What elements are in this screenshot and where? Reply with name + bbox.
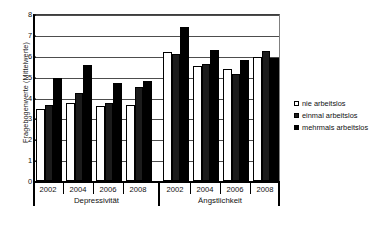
bar [172, 54, 181, 181]
legend-item: mehrmals arbeitslos [294, 122, 382, 133]
bar [105, 103, 114, 181]
bar [193, 66, 202, 181]
bar-group [35, 15, 65, 181]
bar-chart: Fragebogenwerte (Mittelwerte) 012345678 … [0, 0, 384, 237]
bar-group [65, 15, 95, 181]
x-axis-tick-label: 2002 [160, 186, 190, 194]
bar [96, 106, 105, 181]
legend-label: mehrmals arbeitslos [302, 124, 368, 131]
bar [163, 52, 172, 181]
x-axis-tick-label: 2008 [250, 186, 280, 194]
bar-group [162, 15, 192, 181]
bar [113, 83, 122, 181]
y-axis-tick-label: 5 [28, 74, 32, 81]
x-axis-group-separator [220, 182, 221, 194]
x-axis-tick-label: 2006 [93, 186, 123, 194]
x-axis-group-separator [93, 182, 94, 194]
x-axis-tick-label: 2002 [33, 186, 63, 194]
legend-item: nie arbeitslos [294, 98, 382, 109]
x-axis-tick-label: 2008 [123, 186, 153, 194]
legend-swatch-icon [294, 125, 299, 130]
bar [75, 93, 84, 181]
bar [210, 50, 219, 182]
bar [126, 105, 135, 181]
y-axis-tick-label: 1 [28, 157, 32, 164]
bar [36, 109, 45, 181]
bar-group [125, 15, 155, 181]
legend-item: einmal arbeitslos [294, 110, 382, 121]
legend-label: einmal arbeitslos [302, 112, 357, 119]
x-axis-group-separator [63, 182, 64, 194]
bar [45, 105, 54, 181]
legend: nie arbeitsloseinmal arbeitslosmehrmals … [294, 98, 382, 134]
legend-swatch-icon [294, 113, 299, 118]
plot-area: 012345678 [33, 14, 280, 181]
bar [253, 57, 262, 181]
y-axis-tick-label: 4 [28, 95, 32, 102]
y-axis-tick-label: 0 [28, 178, 32, 185]
bar [180, 27, 189, 181]
bar [66, 103, 75, 181]
y-axis-tick-label: 3 [28, 116, 32, 123]
bar [262, 51, 271, 181]
bar-group [95, 15, 125, 181]
y-axis-tick-label: 8 [28, 11, 32, 18]
bar [135, 87, 144, 181]
bar [53, 78, 62, 181]
bar-group [222, 15, 252, 181]
bar [223, 69, 232, 181]
bar [232, 74, 241, 182]
bars-layer [35, 15, 279, 181]
y-axis-tick-label: 2 [28, 137, 32, 144]
x-axis-tick-label: 2004 [63, 186, 93, 194]
x-axis-tick-label: 2004 [190, 186, 220, 194]
bar [270, 58, 279, 181]
x-axis: 20022004200620082002200420062008Depressi… [33, 181, 280, 216]
legend-swatch-icon [294, 101, 299, 106]
bar-group [252, 15, 282, 181]
x-axis-section-label: Depressivität [33, 197, 160, 205]
bar [143, 81, 152, 181]
bar-group [192, 15, 222, 181]
y-axis-tick-label: 7 [28, 32, 32, 39]
bar [240, 60, 249, 181]
bar [83, 65, 92, 181]
x-axis-section-label: Ängstlichkeit [160, 197, 280, 205]
bar [202, 64, 211, 181]
x-axis-group-separator [190, 182, 191, 194]
legend-label: nie arbeitslos [302, 100, 346, 107]
x-axis-line [33, 181, 280, 183]
y-axis-tick-label: 6 [28, 53, 32, 60]
x-axis-tick-label: 2006 [220, 186, 250, 194]
x-axis-group-separator [250, 182, 251, 194]
x-axis-group-separator [123, 182, 124, 194]
